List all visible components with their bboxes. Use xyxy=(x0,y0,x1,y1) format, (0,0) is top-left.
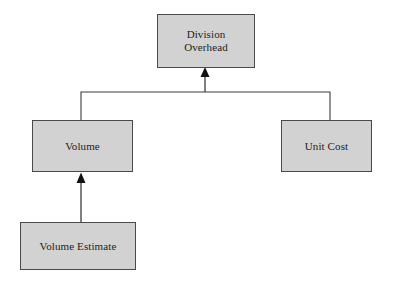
node-label-division-overhead: Division Overhead xyxy=(181,28,231,54)
node-volume[interactable]: Volume xyxy=(32,120,133,172)
node-unit-cost[interactable]: Unit Cost xyxy=(281,120,372,172)
node-label-volume-estimate: Volume Estimate xyxy=(37,240,120,253)
diagram-canvas: Division Overhead Volume Unit Cost Volum… xyxy=(0,0,396,281)
arrowhead-division-overhead xyxy=(201,67,210,77)
node-division-overhead[interactable]: Division Overhead xyxy=(157,14,255,68)
node-volume-estimate[interactable]: Volume Estimate xyxy=(20,222,136,270)
arrowhead-volume xyxy=(77,173,86,184)
edge-merge-stem-to-division-overhead xyxy=(201,67,210,92)
edge-volume-to-division-overhead xyxy=(81,92,205,120)
node-label-unit-cost: Unit Cost xyxy=(302,140,351,153)
node-label-volume: Volume xyxy=(62,140,103,153)
edge-volume-estimate-to-volume xyxy=(77,173,86,223)
edge-unit-cost-to-division-overhead xyxy=(205,92,330,120)
